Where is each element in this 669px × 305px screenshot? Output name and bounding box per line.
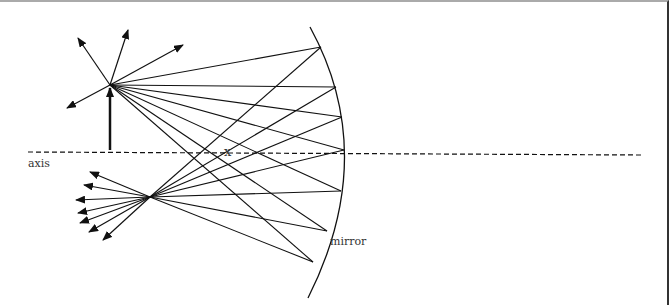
mirror-label: mirror (330, 235, 367, 248)
concave-mirror (308, 27, 345, 298)
axis-label: axis (28, 157, 50, 170)
focus-mark: x (224, 144, 232, 159)
reflected-rays (150, 47, 344, 262)
image-ray-arrows (76, 172, 150, 240)
ray-diagram: x axis mirror (0, 0, 669, 305)
outgoing-ray-arrows (67, 30, 183, 108)
